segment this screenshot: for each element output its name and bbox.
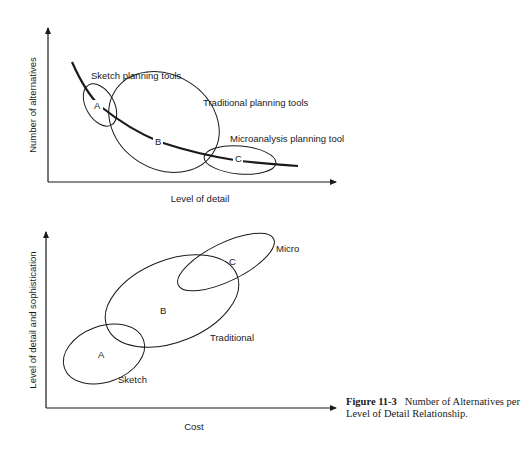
point-a-label: A xyxy=(94,100,101,111)
micro-label-bottom: Micro xyxy=(276,243,299,254)
point-b-bottom: B xyxy=(160,305,166,316)
bottom-x-axis-label: Cost xyxy=(184,421,204,432)
figure: Number of alternatives Level of detail A… xyxy=(0,0,525,449)
figure-caption: Figure 11-3 Number of Alternatives per L… xyxy=(346,396,525,420)
sketch-label: Sketch planning tools xyxy=(91,70,182,81)
sketch-label-bottom: Sketch xyxy=(118,374,147,385)
micro-label: Microanalysis planning tool xyxy=(230,133,344,144)
point-c-label: C xyxy=(235,153,242,164)
figure-number: Figure 11-3 xyxy=(346,396,397,407)
top-chart: Number of alternatives Level of detail A… xyxy=(27,28,344,204)
bottom-chart: Level of detail and sophistication Cost … xyxy=(27,222,336,432)
bottom-y-axis-label: Level of detail and sophistication xyxy=(27,251,38,388)
top-y-axis-label: Number of alternatives xyxy=(27,57,38,153)
traditional-label-bottom: Traditional xyxy=(210,332,254,343)
point-b-label: B xyxy=(155,136,161,147)
point-c-bottom: C xyxy=(229,256,236,267)
top-x-axis-label: Level of detail xyxy=(171,193,230,204)
point-a-bottom: A xyxy=(98,349,105,360)
traditional-label: Traditional planning tools xyxy=(203,97,309,108)
